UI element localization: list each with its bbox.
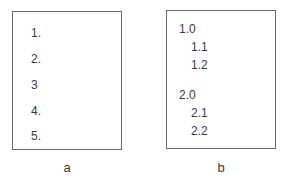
list-item: 4. — [31, 105, 41, 117]
panel-b-hierarchical-list: 1.0 1.1 1.2 2.0 2.1 2.2 — [166, 10, 276, 149]
panel-a-caption: a — [57, 160, 77, 175]
list-item: 5. — [31, 130, 41, 142]
list-item-level-1: 2.0 — [179, 89, 196, 101]
list-item: 3 — [31, 79, 38, 91]
list-item: 1. — [31, 27, 41, 39]
list-item-level-2: 2.1 — [191, 107, 208, 119]
list-item-level-2: 1.1 — [191, 41, 208, 53]
list-item-level-1: 1.0 — [179, 23, 196, 35]
list-item-level-2: 2.2 — [191, 125, 208, 137]
list-item: 2. — [31, 53, 41, 65]
panel-b-caption: b — [211, 160, 231, 175]
list-item-level-2: 1.2 — [191, 59, 208, 71]
panel-a-flat-list: 1. 2. 3 4. 5. — [12, 11, 122, 150]
